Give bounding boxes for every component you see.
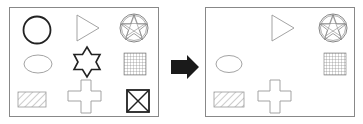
triangle-shape <box>77 15 99 41</box>
star-in-circle-shape <box>120 14 148 42</box>
grid-square-shape <box>124 53 146 75</box>
triangle-shape <box>272 15 294 41</box>
ellipse-shape <box>24 55 52 73</box>
cross-shape <box>68 80 101 113</box>
after-panel <box>205 7 355 117</box>
ellipse-shape <box>216 56 242 73</box>
hatched-rectangle-shape <box>18 92 46 107</box>
grid-square-shape <box>324 53 346 75</box>
cross-shape <box>258 80 291 113</box>
hatched-rectangle-shape <box>214 92 244 107</box>
x-box-shape <box>127 90 149 112</box>
circle-shape <box>24 17 51 44</box>
right-arrow-icon <box>171 55 199 79</box>
star-in-circle-shape <box>319 14 347 42</box>
six-point-star-shape <box>74 47 100 77</box>
before-panel <box>9 7 159 117</box>
